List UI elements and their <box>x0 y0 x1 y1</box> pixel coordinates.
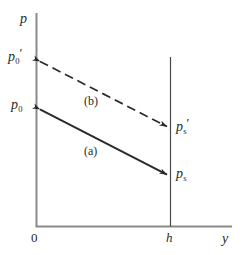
label-p0: p0 <box>11 98 22 112</box>
plot-canvas <box>0 0 243 255</box>
x-tick-label-h: h <box>166 231 173 244</box>
origin-tick-label: 0 <box>31 231 38 244</box>
label-p0-prime-base: p <box>8 49 15 64</box>
label-ps-base: p <box>176 166 183 181</box>
label-p0-prime: p0′ <box>8 50 22 64</box>
label-p0-base: p <box>11 97 18 112</box>
label-ps-prime-base: p <box>176 119 183 134</box>
pressure-depth-figure: p y 0 h p0′ p0 ps′ ps (b) (a) <box>0 0 243 255</box>
label-ps-prime-mark: ′ <box>187 115 190 130</box>
label-ps-subscript: s <box>183 173 186 183</box>
label-ps: ps <box>176 167 186 181</box>
x-axis-label: y <box>222 232 228 246</box>
label-p0-subscript: 0 <box>18 104 22 114</box>
label-ps-prime: ps′ <box>176 120 189 134</box>
curve-label-a: (a) <box>84 145 97 157</box>
curve-label-b: (b) <box>84 95 98 107</box>
label-p0-prime-mark: ′ <box>19 45 22 60</box>
y-axis-label: p <box>20 12 27 26</box>
curve-a-solid-line <box>40 109 167 174</box>
curve-b-dashed-line <box>40 61 167 126</box>
